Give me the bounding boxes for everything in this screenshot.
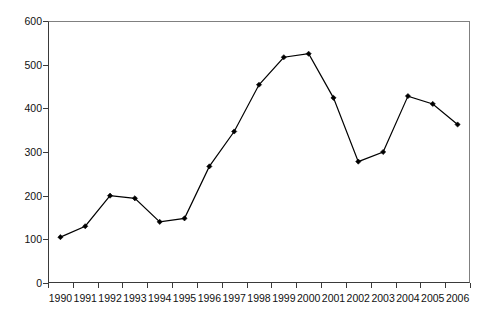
x-tick-label: 2005 — [421, 292, 444, 304]
x-tick-mark — [73, 283, 74, 288]
data-point-marker — [356, 159, 361, 164]
series-line — [60, 54, 457, 237]
x-tick-label: 1994 — [148, 292, 171, 304]
x-tick-label: 2002 — [347, 292, 370, 304]
x-tick-mark — [147, 283, 148, 288]
x-tick-mark — [296, 283, 297, 288]
data-point-marker — [306, 51, 311, 56]
x-tick-mark — [321, 283, 322, 288]
x-tick-mark — [172, 283, 173, 288]
data-point-marker — [331, 95, 336, 100]
x-tick-label: 2003 — [371, 292, 394, 304]
x-tick-label: 1993 — [123, 292, 146, 304]
x-tick-mark — [222, 283, 223, 288]
data-point-marker — [405, 94, 410, 99]
x-tick-mark — [445, 283, 446, 288]
x-tick-mark — [48, 283, 49, 288]
x-tick-label: 2000 — [297, 292, 320, 304]
x-tick-label: 1992 — [98, 292, 121, 304]
x-tick-mark — [371, 283, 372, 288]
x-tick-mark — [197, 283, 198, 288]
x-tick-label: 1996 — [198, 292, 221, 304]
x-tick-label: 1998 — [247, 292, 270, 304]
x-tick-mark — [98, 283, 99, 288]
x-tick-label: 1999 — [272, 292, 295, 304]
data-point-marker — [381, 149, 386, 154]
series-layer — [0, 0, 485, 319]
x-tick-mark — [247, 283, 248, 288]
x-tick-mark — [396, 283, 397, 288]
x-tick-label: 1995 — [173, 292, 196, 304]
line-chart: 0100200300400500600 19901991199219931994… — [0, 0, 485, 319]
x-tick-label: 2004 — [396, 292, 419, 304]
x-tick-mark — [271, 283, 272, 288]
x-tick-label: 2006 — [446, 292, 469, 304]
data-point-marker — [58, 235, 63, 240]
x-tick-mark — [420, 283, 421, 288]
data-point-marker — [182, 216, 187, 221]
x-tick-mark — [470, 283, 471, 288]
series-markers — [58, 51, 460, 240]
x-axis: 1990199119921993199419951996199719981999… — [0, 292, 485, 310]
x-tick-label: 2001 — [322, 292, 345, 304]
x-tick-label: 1997 — [222, 292, 245, 304]
x-tick-label: 1991 — [74, 292, 97, 304]
x-tick-label: 1990 — [49, 292, 72, 304]
x-tick-mark — [122, 283, 123, 288]
x-tick-mark — [346, 283, 347, 288]
